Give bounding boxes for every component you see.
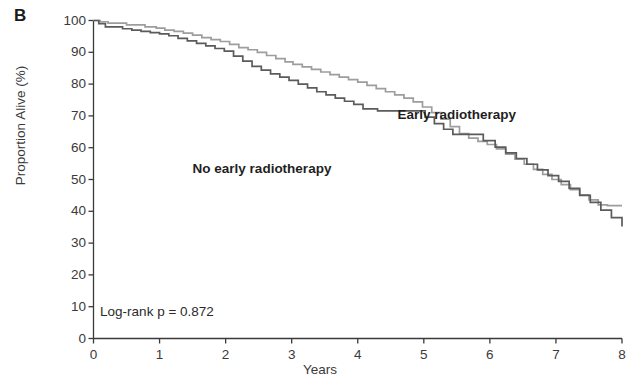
x-tick-label: 7 <box>541 348 571 362</box>
x-tick-label: 5 <box>409 348 439 362</box>
logrank-annotation: Log-rank p = 0.872 <box>100 304 214 319</box>
x-tick-label: 1 <box>145 348 175 362</box>
series-label-early-radiotherapy: Early radiotherapy <box>397 107 516 122</box>
x-tick-label: 8 <box>607 348 637 362</box>
x-axis-tick-labels: 012345678 <box>0 0 640 385</box>
kaplan-meier-figure: B Proportion Alive (%) Years 01020304050… <box>0 0 640 385</box>
x-tick-label: 0 <box>79 348 109 362</box>
x-tick-label: 3 <box>277 348 307 362</box>
series-label-no-early-radiotherapy: No early radiotherapy <box>193 161 332 176</box>
x-tick-label: 6 <box>475 348 505 362</box>
x-tick-label: 4 <box>343 348 373 362</box>
x-tick-label: 2 <box>211 348 241 362</box>
